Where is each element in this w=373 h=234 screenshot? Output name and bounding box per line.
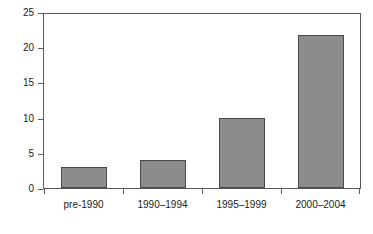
y-axis-tick-label: 0: [28, 182, 34, 195]
y-axis-tick-label: 5: [28, 147, 34, 160]
bar-chart: 0510152025 pre-19901990–19941995–1999200…: [0, 0, 373, 234]
y-axis-tick-mark: [38, 154, 43, 155]
x-axis-label: pre-1990: [44, 198, 123, 218]
x-axis-tick-mark: [359, 189, 360, 194]
y-axis-tick-label: 10: [23, 112, 34, 125]
bars-container: [44, 14, 360, 188]
bar[interactable]: [61, 167, 107, 188]
bar-slot: [44, 14, 123, 188]
x-axis-tick-mark: [123, 189, 124, 194]
y-axis-tick-mark: [38, 119, 43, 120]
bar[interactable]: [219, 118, 265, 188]
bar-slot: [202, 14, 281, 188]
x-axis-tick-mark: [44, 189, 45, 194]
x-axis-label: 1995–1999: [202, 198, 281, 218]
x-axis-tick-mark: [281, 189, 282, 194]
y-axis-tick-mark: [38, 13, 43, 14]
y-axis-tick-label: 20: [23, 41, 34, 54]
bar[interactable]: [140, 160, 186, 188]
y-axis-tick-mark: [38, 189, 43, 190]
y-axis-tick-label: 15: [23, 76, 34, 89]
y-axis-tick-mark: [38, 83, 43, 84]
x-axis-labels: pre-19901990–19941995–19992000–2004: [44, 198, 360, 218]
x-axis: [44, 189, 360, 195]
bar-slot: [281, 14, 360, 188]
bar-slot: [123, 14, 202, 188]
x-axis-label: 1990–1994: [123, 198, 202, 218]
y-axis: 0510152025: [0, 13, 43, 189]
y-axis-tick-label: 25: [23, 6, 34, 19]
bar[interactable]: [298, 35, 344, 188]
y-axis-tick-mark: [38, 48, 43, 49]
x-axis-label: 2000–2004: [281, 198, 360, 218]
x-axis-tick-mark: [202, 189, 203, 194]
